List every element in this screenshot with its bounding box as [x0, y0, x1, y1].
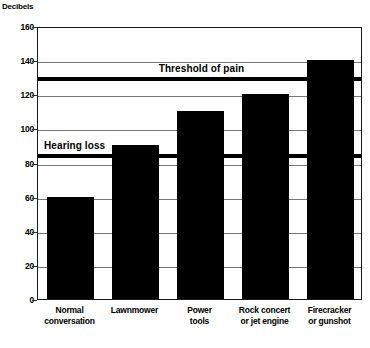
- decibel-bar-chart: Decibels 160140120100806040200 Hearing l…: [0, 0, 370, 348]
- y-axis-tick-label: 80: [4, 159, 34, 169]
- y-axis-title: Decibels: [2, 2, 33, 11]
- y-axis-tick-label: 120: [4, 90, 34, 100]
- bar: [47, 197, 94, 299]
- x-axis-category-label: Power tools: [167, 305, 232, 327]
- reference-line: [38, 154, 361, 158]
- y-axis-tick-label: 100: [4, 124, 34, 134]
- y-axis-tick-label: 160: [4, 22, 34, 32]
- bar: [112, 145, 159, 299]
- y-axis-tick-label: 40: [4, 227, 34, 237]
- bar: [242, 94, 289, 299]
- x-axis-category-label: Normal conversation: [37, 305, 102, 327]
- bar: [307, 60, 354, 299]
- reference-line-label: Threshold of pain: [38, 63, 365, 74]
- y-axis-tick-label: 0: [4, 295, 34, 305]
- reference-line: [38, 77, 361, 81]
- y-axis-tick-label: 140: [4, 56, 34, 66]
- x-axis-category-label: Rock concert or jet engine: [232, 305, 297, 327]
- bar: [177, 111, 224, 299]
- x-axis-category-label: Lawnmower: [102, 305, 167, 316]
- reference-line-label: Hearing loss: [42, 140, 107, 151]
- y-axis-tick-label: 60: [4, 193, 34, 203]
- y-axis-tick-mark: [32, 300, 37, 301]
- x-axis-category-label: Firecracker or gunshot: [297, 305, 362, 327]
- plot-area: Hearing lossThreshold of pain: [37, 27, 362, 300]
- y-axis-tick-label: 20: [4, 261, 34, 271]
